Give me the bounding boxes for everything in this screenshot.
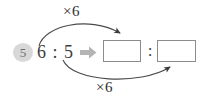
bottom-multiplier-label: ×6	[96, 79, 113, 96]
top-multiplier-label: ×6	[63, 3, 80, 20]
top-curved-arrow	[39, 24, 120, 46]
ratio-scaling-diagram: 5 6 : 5 : ×6 ×6	[0, 0, 208, 102]
bottom-curved-arrow	[63, 60, 170, 79]
